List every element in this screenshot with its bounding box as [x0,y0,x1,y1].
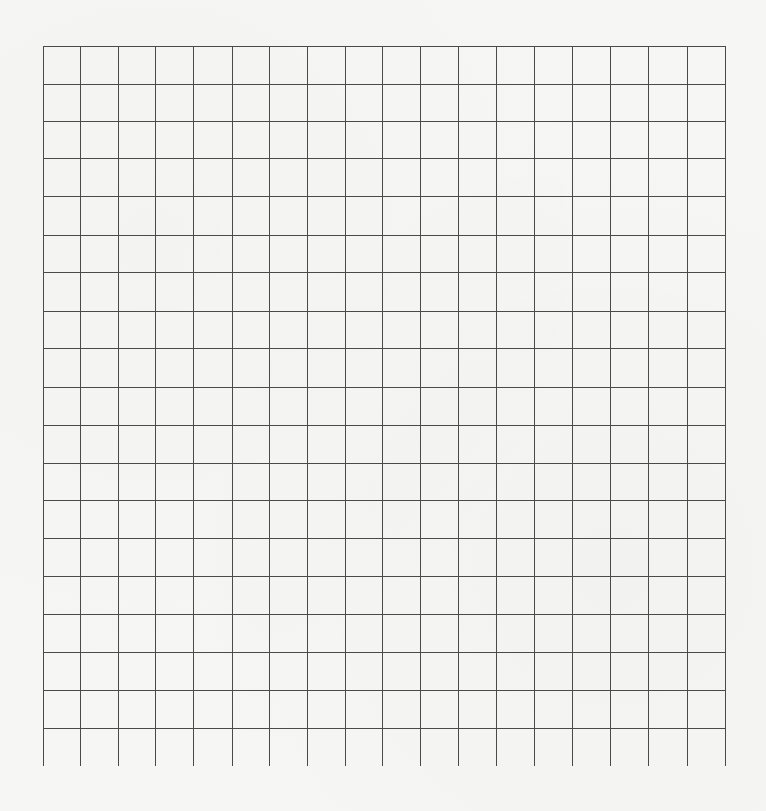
grid-horizontal-line [43,690,726,691]
grid-vertical-line [307,46,308,766]
grid-horizontal-line [43,158,726,159]
grid-vertical-line [534,46,535,766]
grid-horizontal-line [43,311,726,312]
grid-vertical-line [572,46,573,766]
grid-horizontal-line [43,463,726,464]
grid-vertical-line [687,46,688,766]
grid-vertical-line [193,46,194,766]
grid-horizontal-line [43,728,726,729]
grid-horizontal-line [43,46,726,47]
grid-vertical-line [420,46,421,766]
grid-vertical-line [382,46,383,766]
grid-horizontal-line [43,348,726,349]
grid-horizontal-line [43,121,726,122]
grid-horizontal-line [43,235,726,236]
grid-vertical-line [496,46,497,766]
grid-horizontal-line [43,84,726,85]
grid-horizontal-line [43,387,726,388]
grid-vertical-line [269,46,270,766]
grid-vertical-line [232,46,233,766]
grid-vertical-line [725,46,726,766]
graph-paper-sheet [0,0,766,811]
grid-vertical-line [43,46,44,766]
grid-horizontal-line [43,425,726,426]
grid-vertical-line [648,46,649,766]
grid-horizontal-line [43,538,726,539]
grid-horizontal-line [43,576,726,577]
grid-horizontal-line [43,500,726,501]
grid-vertical-line [458,46,459,766]
grid-vertical-line [118,46,119,766]
grid-vertical-line [80,46,81,766]
grid-vertical-line [610,46,611,766]
grid-vertical-line [345,46,346,766]
grid-horizontal-line [43,196,726,197]
grid-horizontal-line [43,652,726,653]
grid-vertical-line [155,46,156,766]
grid-horizontal-line [43,272,726,273]
grid-horizontal-line [43,614,726,615]
